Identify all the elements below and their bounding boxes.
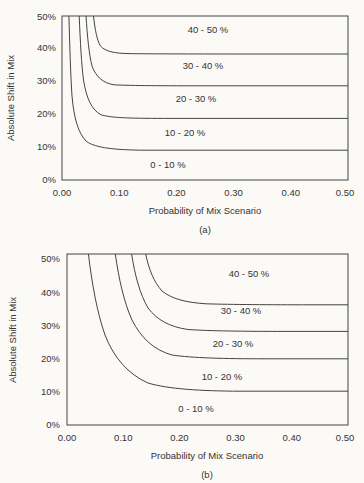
y-tick-label-b-4: 40% bbox=[41, 287, 61, 298]
x-tick-label-b-4: 0.40 bbox=[283, 432, 302, 443]
region-label-b-40-50: 40 - 50 % bbox=[229, 268, 270, 279]
x-tick-label-a-4: 0.40 bbox=[282, 187, 301, 198]
y-axis-title-b: Absolute Shift in Mix bbox=[7, 297, 18, 383]
y-tick-label-a-4: 40% bbox=[37, 42, 57, 53]
chart-panel-b: Absolute Shift in Mix 0% 10% 20% 30% 40%… bbox=[0, 240, 364, 483]
y-axis-title-a: Absolute Shift in Mix bbox=[5, 55, 16, 141]
x-tick-label-a-1: 0.10 bbox=[110, 187, 129, 198]
x-tick-label-a-3: 0.30 bbox=[224, 187, 243, 198]
region-label-b-20-30: 20 - 30 % bbox=[213, 338, 254, 349]
contour-a-1 bbox=[69, 16, 348, 150]
x-tick-label-b-2: 0.20 bbox=[170, 432, 189, 443]
region-label-b-0-10: 0 - 10 % bbox=[178, 403, 214, 414]
y-tick-label-b-0: 0% bbox=[46, 419, 60, 430]
y-tick-label-b-1: 10% bbox=[41, 386, 61, 397]
x-axis-title-b: Probability of Mix Scenario bbox=[151, 450, 263, 461]
figure-container: Absolute Shift in Mix 0% 10% 20% 30% 40%… bbox=[0, 0, 364, 483]
contour-a-4 bbox=[94, 16, 349, 54]
y-tick-label-a-2: 20% bbox=[37, 108, 57, 119]
y-tick-label-a-1: 10% bbox=[37, 141, 57, 152]
x-tick-label-b-5: 0.50 bbox=[336, 432, 355, 443]
region-label-a-40-50: 40 - 50 % bbox=[188, 24, 229, 35]
x-tick-label-b-3: 0.30 bbox=[226, 432, 245, 443]
y-tick-label-b-5: 50% bbox=[41, 253, 61, 264]
panel-caption-a: (a) bbox=[199, 224, 211, 235]
y-tick-label-b-3: 30% bbox=[41, 320, 61, 331]
region-label-a-0-10: 0 - 10 % bbox=[150, 159, 186, 170]
region-label-b-30-40: 30 - 40 % bbox=[221, 305, 262, 316]
y-tick-label-a-0: 0% bbox=[42, 174, 56, 185]
x-tick-label-a-5: 0.50 bbox=[336, 187, 355, 198]
y-tick-label-a-5: 50% bbox=[37, 11, 57, 22]
plot-frame-b bbox=[67, 254, 348, 425]
chart-panel-a: Absolute Shift in Mix 0% 10% 20% 30% 40%… bbox=[0, 0, 364, 240]
chart-svg-a: Absolute Shift in Mix 0% 10% 20% 30% 40%… bbox=[0, 0, 364, 240]
x-tick-label-b-1: 0.10 bbox=[114, 432, 133, 443]
region-label-b-10-20: 10 - 20 % bbox=[202, 371, 243, 382]
x-axis-title-a: Probability of Mix Scenario bbox=[149, 205, 261, 216]
contour-b-4 bbox=[146, 254, 348, 305]
region-label-a-20-30: 20 - 30 % bbox=[176, 93, 217, 104]
x-tick-label-a-0: 0.00 bbox=[53, 187, 72, 198]
x-tick-label-b-0: 0.00 bbox=[58, 432, 77, 443]
y-tick-label-a-3: 30% bbox=[37, 75, 57, 86]
y-tick-label-b-2: 20% bbox=[41, 353, 61, 364]
x-tick-label-a-2: 0.20 bbox=[167, 187, 186, 198]
region-label-a-30-40: 30 - 40 % bbox=[183, 60, 224, 71]
chart-svg-b: Absolute Shift in Mix 0% 10% 20% 30% 40%… bbox=[0, 240, 364, 483]
panel-caption-b: (b) bbox=[201, 469, 213, 480]
region-label-a-10-20: 10 - 20 % bbox=[165, 127, 206, 138]
